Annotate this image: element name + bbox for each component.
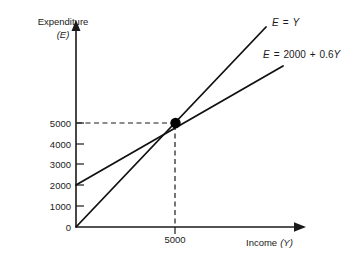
chart-canvas: 5000 4000 3000 2000 1000 0 5000 Expendit… [0, 0, 361, 262]
y-tick-label-0: 0 [66, 222, 71, 233]
y-tick-label-1000: 1000 [50, 201, 71, 212]
series-label-2-plus: + [310, 49, 316, 60]
x-axis-title-text: Income [246, 237, 277, 248]
series-label-2-eq: = [274, 49, 280, 60]
series-line-e-equals-y [76, 27, 266, 227]
x-axis-title: Income(Y) [246, 237, 293, 248]
equilibrium-point-marker [170, 118, 180, 128]
series-label-2-var: Y [334, 49, 342, 60]
series-label-e-equals-y: E=Y [272, 17, 301, 28]
y-tick-label-3000: 3000 [50, 159, 71, 170]
series-label-1-rhs: Y [293, 17, 301, 28]
x-axis-title-var: (Y) [280, 237, 293, 248]
y-tick-label-2000: 2000 [50, 180, 71, 191]
keynesian-cross-chart: 5000 4000 3000 2000 1000 0 5000 Expendit… [0, 0, 361, 262]
y-axis-title-line2: (E) [57, 29, 70, 40]
y-tick-label-5000: 5000 [50, 118, 71, 129]
x-tick-label-5000: 5000 [164, 234, 185, 245]
y-axis-title-line1: Expenditure [38, 16, 89, 27]
series-label-2-coeff: 0.6 [320, 49, 334, 60]
y-tick-label-4000: 4000 [50, 139, 71, 150]
series-label-consumption-function: E=2000+0.6Y [263, 49, 342, 60]
series-label-1-lhs: E [272, 17, 279, 28]
series-label-1-eq: = [283, 17, 289, 28]
series-label-2-const: 2000 [284, 49, 307, 60]
x-axis-arrowhead [294, 222, 306, 232]
series-label-2-lhs: E [263, 49, 270, 60]
